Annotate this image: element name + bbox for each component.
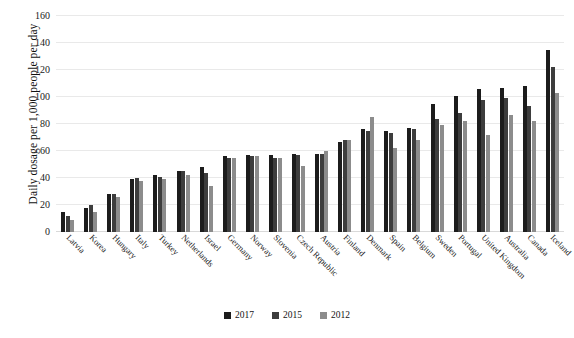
bar[interactable] bbox=[250, 156, 254, 232]
bar-group[interactable] bbox=[518, 16, 541, 232]
bar[interactable] bbox=[458, 113, 462, 232]
bar[interactable] bbox=[463, 121, 467, 232]
bar[interactable] bbox=[204, 173, 208, 232]
bar-group[interactable] bbox=[241, 16, 264, 232]
y-tick-label: 100 bbox=[35, 91, 50, 102]
bar[interactable] bbox=[158, 177, 162, 232]
bar[interactable] bbox=[389, 133, 393, 232]
bar-group[interactable] bbox=[541, 16, 564, 232]
bar[interactable] bbox=[273, 158, 277, 232]
bar[interactable] bbox=[116, 197, 120, 232]
bar[interactable] bbox=[407, 128, 411, 232]
bar-group[interactable] bbox=[426, 16, 449, 232]
bar[interactable] bbox=[89, 205, 93, 232]
bar-group[interactable] bbox=[79, 16, 102, 232]
bar[interactable] bbox=[477, 89, 481, 232]
legend-item[interactable]: 2017 bbox=[224, 310, 254, 320]
bar[interactable] bbox=[509, 115, 513, 232]
bar[interactable] bbox=[177, 171, 181, 232]
bar-group[interactable] bbox=[472, 16, 495, 232]
bar[interactable] bbox=[232, 158, 236, 232]
bar[interactable] bbox=[440, 125, 444, 232]
bar-group[interactable] bbox=[148, 16, 171, 232]
bar[interactable] bbox=[435, 119, 439, 232]
bar-group[interactable] bbox=[171, 16, 194, 232]
bar-group[interactable] bbox=[264, 16, 287, 232]
bar-group[interactable] bbox=[356, 16, 379, 232]
bar-group[interactable] bbox=[495, 16, 518, 232]
bar-group[interactable] bbox=[56, 16, 79, 232]
bar-group[interactable] bbox=[287, 16, 310, 232]
bar[interactable] bbox=[70, 220, 74, 232]
legend-swatch bbox=[320, 312, 327, 319]
bar[interactable] bbox=[66, 216, 70, 232]
bar[interactable] bbox=[209, 186, 213, 232]
bar[interactable] bbox=[139, 181, 143, 232]
bar[interactable] bbox=[84, 208, 88, 232]
bar[interactable] bbox=[347, 140, 351, 232]
bar[interactable] bbox=[112, 194, 116, 232]
x-tick-label: Iceland bbox=[549, 232, 574, 257]
bar-group[interactable] bbox=[102, 16, 125, 232]
bar[interactable] bbox=[315, 154, 319, 232]
bar-group[interactable] bbox=[125, 16, 148, 232]
bar[interactable] bbox=[361, 129, 365, 232]
bar-group[interactable] bbox=[379, 16, 402, 232]
bar[interactable] bbox=[246, 155, 250, 232]
bar[interactable] bbox=[296, 155, 300, 232]
bar[interactable] bbox=[227, 158, 231, 232]
x-tick-label: Israel bbox=[203, 232, 224, 253]
bar[interactable] bbox=[412, 129, 416, 232]
bar[interactable] bbox=[301, 166, 305, 232]
bar[interactable] bbox=[481, 100, 485, 232]
bar[interactable] bbox=[269, 155, 273, 232]
bar[interactable] bbox=[366, 131, 370, 232]
bar[interactable] bbox=[278, 158, 282, 232]
bar[interactable] bbox=[393, 148, 397, 232]
x-tick-label: Turkey bbox=[156, 232, 180, 256]
bar[interactable] bbox=[223, 156, 227, 232]
bar[interactable] bbox=[416, 140, 420, 232]
bar[interactable] bbox=[338, 142, 342, 232]
bar[interactable] bbox=[61, 212, 65, 232]
bar-group[interactable] bbox=[310, 16, 333, 232]
bar[interactable] bbox=[523, 86, 527, 232]
bar[interactable] bbox=[200, 167, 204, 232]
bar[interactable] bbox=[153, 175, 157, 232]
bar[interactable] bbox=[532, 121, 536, 232]
bar[interactable] bbox=[162, 179, 166, 232]
bar-group[interactable] bbox=[218, 16, 241, 232]
bar-group[interactable] bbox=[195, 16, 218, 232]
plot-area: 020406080100120140160 bbox=[56, 16, 564, 232]
bar[interactable] bbox=[546, 50, 550, 232]
bar[interactable] bbox=[504, 98, 508, 232]
bar[interactable] bbox=[130, 179, 134, 232]
legend-item[interactable]: 2015 bbox=[272, 310, 302, 320]
bar[interactable] bbox=[320, 154, 324, 232]
bar[interactable] bbox=[527, 106, 531, 232]
bar[interactable] bbox=[292, 154, 296, 232]
bar[interactable] bbox=[135, 178, 139, 232]
y-tick-label: 120 bbox=[35, 64, 50, 75]
bar[interactable] bbox=[551, 67, 555, 232]
bar[interactable] bbox=[107, 194, 111, 232]
bar-group[interactable] bbox=[402, 16, 425, 232]
bar[interactable] bbox=[555, 93, 559, 232]
bar[interactable] bbox=[186, 175, 190, 232]
bar[interactable] bbox=[370, 117, 374, 232]
legend-item[interactable]: 2012 bbox=[320, 310, 350, 320]
bar[interactable] bbox=[500, 88, 504, 232]
bar[interactable] bbox=[454, 96, 458, 232]
bar[interactable] bbox=[384, 131, 388, 232]
bar-group[interactable] bbox=[449, 16, 472, 232]
bar[interactable] bbox=[181, 171, 185, 232]
x-tick-label: Finland bbox=[341, 232, 367, 258]
bar[interactable] bbox=[486, 135, 490, 232]
y-tick-label: 140 bbox=[35, 37, 50, 48]
bar[interactable] bbox=[324, 151, 328, 232]
bar[interactable] bbox=[343, 140, 347, 232]
bar-group[interactable] bbox=[333, 16, 356, 232]
bar[interactable] bbox=[93, 212, 97, 232]
bar[interactable] bbox=[431, 104, 435, 232]
bar[interactable] bbox=[255, 156, 259, 232]
